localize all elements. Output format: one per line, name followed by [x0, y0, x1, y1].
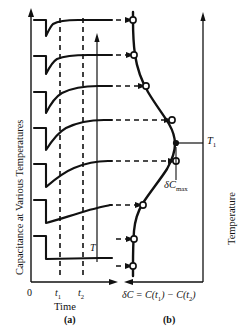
panel-a-tick-t1: t1: [55, 288, 61, 301]
transient-trace-6: [34, 200, 112, 223]
panel-a-ylabel: Capacitance at Various Temperatures: [15, 120, 26, 275]
tick-t2-subscript: 2: [81, 293, 84, 300]
panel-b-ylabel: Temperature: [227, 192, 238, 245]
peak-temperature-label: T1: [207, 136, 216, 149]
dlts-peak-curve: [133, 12, 175, 276]
temperature-arrow-label: T: [90, 243, 96, 253]
transient-trace-2: [34, 55, 112, 74]
sample-marker-6: [140, 202, 146, 208]
deltacmax-symbol: δC: [164, 179, 176, 190]
panel-b: [116, 12, 206, 285]
transient-trace-5: [34, 161, 112, 187]
sample-marker-2: [131, 52, 137, 58]
panel-a-tick-t2: t2: [78, 288, 84, 301]
panel-a-origin-tick: 0: [27, 288, 32, 298]
dlts-figure: [0, 0, 239, 327]
peak-point-group: [173, 140, 203, 146]
peak-temp-subscript: 1: [213, 141, 216, 148]
sample-marker-1: [130, 17, 136, 23]
deltacmax-label: δCmax: [164, 180, 188, 193]
transient-trace-3: [34, 86, 112, 113]
curve-sample-markers: [130, 17, 179, 269]
capacitance-transient-traces: [34, 20, 112, 259]
transient-trace-7: [34, 236, 112, 259]
panel-b-xlabel: δC = C(t1) − C(t2): [122, 290, 196, 303]
sample-marker-8: [130, 263, 136, 269]
panel-a-x-axis: [31, 279, 118, 285]
peak-point-marker: [173, 140, 179, 146]
transient-trace-1: [34, 20, 112, 36]
xlabel-part-1: δC = C(t: [122, 289, 158, 300]
transient-trace-4: [34, 120, 112, 150]
sample-marker-7: [131, 236, 137, 242]
panel-b-x-axis: [124, 279, 203, 285]
panel-a: [28, 8, 118, 285]
panel-b-caption: (b): [163, 315, 175, 325]
sample-marker-3: [143, 83, 149, 89]
tick-t1-subscript: 1: [58, 293, 61, 300]
panel-a-xlabel: Time: [54, 302, 76, 313]
temperature-increase-arrow: [94, 33, 99, 262]
panel-a-caption: (a): [64, 315, 76, 325]
deltacmax-subscript: max: [176, 185, 188, 192]
xlabel-part-3: ): [192, 289, 195, 300]
xlabel-part-2: ) − C(t: [161, 289, 189, 300]
transfer-arrows: [116, 20, 170, 266]
sample-marker-4: [169, 117, 175, 123]
panel-a-y-axis: [28, 8, 34, 282]
panel-b-y-axis: [200, 12, 205, 282]
